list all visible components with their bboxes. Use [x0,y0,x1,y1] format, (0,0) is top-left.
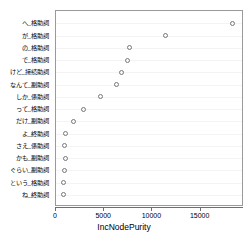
grid-line [56,36,242,37]
x-axis-tick [151,207,152,211]
grid-line [56,158,242,159]
y-axis-tick-label: しか_係助詞 [16,92,49,99]
y-axis-tick-label: だけ_副助詞 [16,117,49,124]
data-point [163,33,168,38]
data-point [119,70,124,75]
x-axis-tick-label: 0 [53,212,57,219]
grid-line [56,48,242,49]
data-point [71,119,76,124]
grid-line [56,134,242,135]
grid-line [56,97,242,98]
data-point [114,82,119,87]
grid-line [56,195,242,196]
data-point [127,45,132,50]
x-axis-title: IncNodePurity [0,222,248,232]
y-axis-labels: へ_格助詞が_格助詞の_格助詞で_格助詞けど_接続助詞なんて_副助詞しか_係助詞… [0,10,52,206]
y-axis-tick-label: よ_終助詞 [22,129,49,136]
x-axis-tick-label: 10000 [142,212,161,219]
y-axis-tick-label: さえ_係助詞 [16,141,49,148]
y-axis-tick-label: かも_副助詞 [16,154,49,161]
x-axis-tick-label: 15000 [190,212,209,219]
x-axis-tick [55,207,56,211]
y-axis-tick-label: ね_終助詞 [22,190,49,197]
x-axis-tick [200,207,201,211]
plot-panel [55,10,243,206]
data-point [63,131,68,136]
grid-line [56,72,242,73]
data-point [61,192,66,197]
grid-line [56,183,242,184]
grid-line [56,170,242,171]
y-axis-tick-label: へ_格助詞 [22,19,49,26]
y-axis-tick-label: という_格助詞 [10,178,49,185]
y-axis-tick-label: で_格助詞 [22,56,49,63]
data-point [62,143,67,148]
grid-line [56,23,242,24]
x-axis-line [55,207,243,208]
grid-line [56,121,242,122]
variable-importance-dotchart: へ_格助詞が_格助詞の_格助詞で_格助詞けど_接続助詞なんて_副助詞しか_係助詞… [0,0,248,239]
y-axis-tick-label: ぐらい_副助詞 [10,166,49,173]
grid-line [56,146,242,147]
y-axis-tick-label: の_格助詞 [22,43,49,50]
data-point [63,156,68,161]
y-axis-tick-label: が_格助詞 [22,31,49,38]
grid-line [56,60,242,61]
x-axis-tick-label: 5000 [95,212,111,219]
data-point [81,107,86,112]
data-point [98,94,103,99]
grid-line [56,85,242,86]
data-point [62,168,67,173]
data-point [125,58,130,63]
data-point [230,21,235,26]
data-point [61,180,66,185]
y-axis-tick-label: なんて_副助詞 [10,80,49,87]
x-axis-tick [103,207,104,211]
y-axis-tick-label: けど_接続助詞 [10,68,49,75]
y-axis-tick-label: って_格助詞 [16,105,49,112]
